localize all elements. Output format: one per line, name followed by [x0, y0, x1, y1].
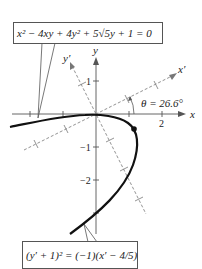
x-prime-label: x′ — [177, 63, 186, 75]
x-axis-label: x — [189, 108, 195, 120]
y-prime-label: y′ — [62, 52, 71, 64]
y-axis-label: y — [92, 44, 98, 56]
y-prime-arrow-icon — [70, 62, 75, 70]
y-tick-1: 1 — [86, 76, 91, 87]
parabola-curve — [10, 115, 137, 234]
y-axis — [93, 60, 99, 234]
x-tick-2: 2 — [159, 118, 164, 129]
vertex-point — [131, 126, 137, 132]
bottom-callout-pointer — [84, 224, 97, 242]
y-tick-neg1: −1 — [80, 142, 91, 153]
y-axis-arrow-icon — [93, 57, 99, 65]
angle-label: θ = 26.6° — [141, 97, 184, 109]
original-equation-callout: x² − 4xy + 4y² + 5√5y + 1 = 0 — [13, 22, 163, 44]
x-prime-arrow-icon — [169, 73, 177, 80]
y-tick-neg2: −2 — [80, 175, 91, 186]
y-prime-axis — [72, 66, 146, 214]
x-axis-arrow-icon — [178, 111, 186, 117]
top-callout-pointer — [38, 43, 55, 118]
x-prime-axis — [24, 76, 172, 150]
rotated-equation-callout: (y′ + 1)² = (−1)(x′ − 4/5) — [22, 241, 138, 269]
